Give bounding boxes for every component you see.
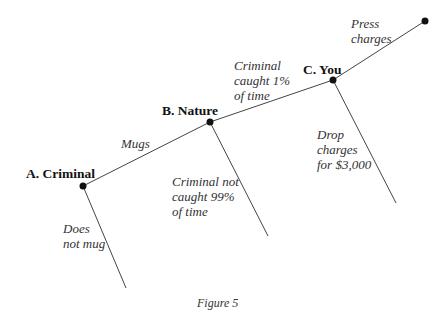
figure-caption: Figure 5	[197, 296, 238, 311]
node-b-label: B. Nature	[162, 103, 218, 118]
branch-does-not-mug-label: Does not mug	[63, 221, 105, 251]
terminal-press-dot	[422, 18, 429, 25]
game-tree-lines	[0, 0, 447, 318]
node-a-dot	[80, 183, 87, 190]
branch-press-label: Press charges	[351, 16, 392, 46]
node-c-dot	[330, 77, 337, 84]
node-b-dot	[207, 119, 214, 126]
branch-mugs-label: Mugs	[121, 136, 150, 151]
branch-caught-label: Criminal caught 1% of time	[234, 58, 290, 103]
node-c-label: C. You	[303, 62, 342, 77]
branch-drop-label: Drop charges for $3,000	[317, 127, 371, 172]
branch-not-caught-label: Criminal not caught 99% of time	[172, 174, 239, 219]
node-a-label: A. Criminal	[26, 166, 95, 181]
